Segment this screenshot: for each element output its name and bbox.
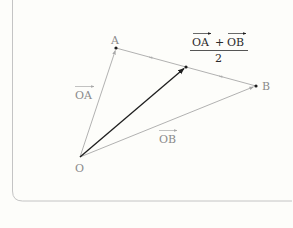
vector-diagram: A B O OA OB OA + OB 2 [0, 0, 292, 228]
average-formula: OA + OB 2 [190, 34, 248, 66]
vector-ob-label-group: OB [159, 131, 177, 147]
point-m-dot [184, 65, 187, 68]
point-b-label: B [262, 80, 270, 93]
point-b-dot [254, 84, 257, 87]
frame-border [13, 0, 293, 201]
segment-ab-tick-1 [149, 57, 152, 58]
point-a-label: A [110, 34, 120, 47]
segment-ab-tick-2 [219, 76, 222, 77]
formula-numerator-ob: OB [227, 36, 244, 49]
vector-oa [80, 51, 115, 158]
diagram-panel: A B O OA OB OA + OB 2 [0, 0, 292, 228]
vector-ob-label: OB [159, 133, 176, 146]
formula-denominator: 2 [215, 52, 222, 65]
vector-oa-label: OA [75, 89, 93, 102]
formula-numerator-oa: OA [192, 36, 210, 49]
vector-ob [80, 87, 254, 157]
formula-plus: + [215, 36, 224, 49]
vector-oa-label-group: OA [75, 87, 94, 103]
point-o-label: O [75, 162, 84, 175]
